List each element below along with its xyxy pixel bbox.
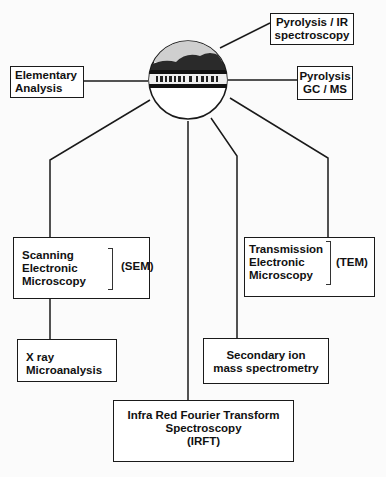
node-label: GC / MS xyxy=(298,83,352,96)
node-sem: Scanning Electronic Microscopy (SEM) xyxy=(13,237,150,299)
node-irft: Infra Red Fourier Transform Spectroscopy… xyxy=(113,400,294,462)
node-xray: X ray Microanalysis xyxy=(17,339,117,382)
node-sims: Secondary ion mass spectrometry xyxy=(203,338,329,384)
node-label: Microscopy xyxy=(249,269,374,282)
node-label: Infra Red Fourier Transform xyxy=(114,409,293,422)
node-label: Transmission xyxy=(249,243,374,256)
node-pyrolysis-ir: Pyrolysis / IR spectroscopy xyxy=(270,13,354,45)
node-label: Analysis xyxy=(15,82,83,95)
bracket xyxy=(326,241,331,285)
node-label: Secondary ion xyxy=(204,349,328,362)
node-label: spectroscopy xyxy=(271,29,353,42)
node-label: Pyrolysis xyxy=(298,70,352,83)
node-label: Pyrolysis / IR xyxy=(271,16,353,29)
landscape-logo-icon xyxy=(148,40,228,120)
node-label: Microscopy xyxy=(22,275,149,288)
node-label: Spectroscopy xyxy=(114,422,293,435)
node-label: mass spectrometry xyxy=(204,362,328,375)
node-pyrolysis-gcms: Pyrolysis GC / MS xyxy=(297,66,353,100)
node-tem: Transmission Electronic Microscopy (TEM) xyxy=(244,237,375,297)
bracket xyxy=(108,248,113,290)
node-label: X ray xyxy=(26,351,116,364)
node-abbr: (SEM) xyxy=(121,260,154,273)
node-elementary-analysis: Elementary Analysis xyxy=(10,66,84,98)
node-label: (IRFT) xyxy=(114,435,293,448)
node-abbr: (TEM) xyxy=(336,256,368,269)
center-logo xyxy=(148,40,228,120)
node-label: Microanalysis xyxy=(26,364,116,377)
node-label: Elementary xyxy=(15,69,83,82)
